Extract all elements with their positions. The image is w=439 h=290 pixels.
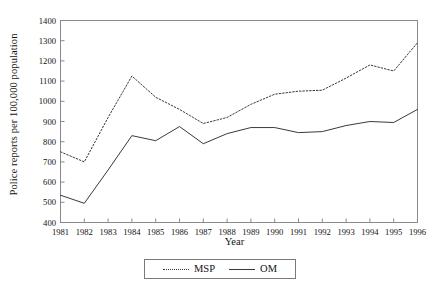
x-axis-title-text: Year [225,236,244,247]
plot-area-border [61,21,418,223]
y-tick-label: 1400 [39,16,56,26]
y-tick-label: 1100 [39,76,56,86]
y-axis-tick-labels: 40050060070080090010001100120013001400 [39,16,56,228]
y-tick-label: 600 [43,177,56,187]
legend-label-om: OM [260,264,277,275]
series-line-om [61,109,418,203]
legend-swatch-dotted-icon [163,269,189,270]
chart-figure: Police reports per 100,000 population 40… [0,0,439,290]
y-tick-label: 1200 [39,56,56,66]
y-tick-label: 900 [43,117,56,127]
legend-item-om: OM [229,264,277,275]
y-tick-label: 800 [43,137,56,147]
y-tick-label: 500 [43,197,56,207]
y-tick-label: 1300 [39,36,56,46]
x-axis-title: Year [0,236,439,247]
y-axis-tick-marks [61,21,65,223]
legend-item-msp: MSP [163,264,215,275]
data-series-layer [61,43,418,204]
x-axis-tick-marks [61,219,418,223]
y-tick-label: 700 [43,157,56,167]
legend-label-msp: MSP [194,264,215,275]
chart-legend: MSP OM [144,259,296,279]
series-line-msp [61,43,418,162]
y-tick-label: 1000 [39,96,56,106]
legend-swatch-solid-icon [229,269,255,270]
